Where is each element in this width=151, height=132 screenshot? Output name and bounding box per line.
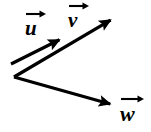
vector-arrow-accent-icon — [120, 94, 135, 103]
vector-u-shaft — [11, 40, 59, 64]
vector-label-w: w — [120, 94, 135, 125]
vector-label-u-glyph: u — [25, 18, 37, 39]
vector-label-v-glyph: v — [68, 10, 77, 31]
vector-label-w-glyph: w — [120, 103, 135, 125]
vector-label-u: u — [25, 9, 37, 39]
vector-arrow-accent-icon — [25, 9, 37, 18]
vector-label-v: v — [68, 1, 77, 31]
vector-w-shaft — [14, 77, 110, 104]
vector-arrow-accent-icon — [68, 1, 77, 10]
vector-diagram: u v w — [0, 0, 151, 132]
